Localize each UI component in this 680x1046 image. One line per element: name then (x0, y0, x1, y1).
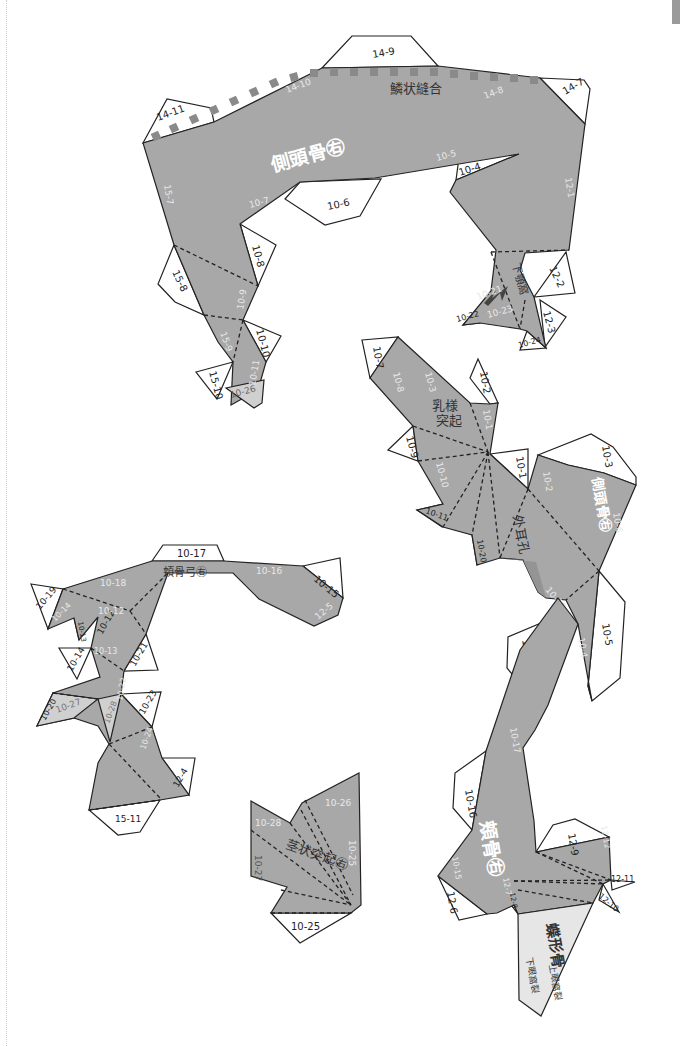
piece-zygomatic-arch[interactable]: 10-17 10-15 10-19 10-13 10-12 10-14 10-2… (31, 545, 343, 835)
svg-text:10-16: 10-16 (256, 566, 282, 576)
svg-text:10-25: 10-25 (291, 921, 320, 932)
svg-text:10-26: 10-26 (325, 798, 351, 808)
svg-text:10-27: 10-27 (253, 855, 263, 881)
svg-text:10-17: 10-17 (177, 548, 206, 559)
piece-styloid[interactable]: 10-25 10-28 10-26 10-27 10-25 茎状突起㊨ (251, 773, 361, 943)
svg-text:10-28: 10-28 (255, 818, 281, 828)
mastoid-title-line2: 突起 (436, 413, 462, 428)
svg-text:12-11: 12-11 (611, 875, 634, 884)
suture-label: 鱗状縫合 (390, 81, 442, 96)
svg-text:10-12: 10-12 (98, 606, 124, 616)
zygomatic-arch-title: 頬骨弓㊨ (163, 565, 207, 579)
piece-mastoid[interactable]: 10-7 10-2 10-9 10-1 10-11 10-20 10-3 10-… (362, 337, 636, 701)
svg-text:10-18: 10-18 (100, 578, 126, 588)
svg-text:10-4: 10-4 (576, 637, 589, 659)
svg-text:15-11: 15-11 (115, 814, 141, 824)
template-sheet: 14-9 14-11 14-7 10-6 10-4 10-8 15-8 10-1… (0, 0, 680, 1046)
svg-text:10-13: 10-13 (94, 647, 117, 656)
mastoid-title-line1: 乳様 (432, 398, 458, 413)
